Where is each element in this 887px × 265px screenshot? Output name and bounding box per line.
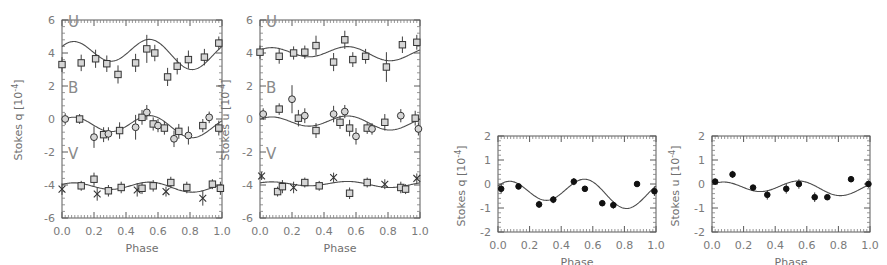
x-tick-label: 0.6 [584,239,602,252]
y-axis-label-exponent: -4 [218,84,227,92]
data-point [316,181,322,191]
y-tick-label: -2 [480,226,491,239]
y-tick-label: 1 [698,154,705,167]
y-axis-label-text: Stokes u [10-4] [218,79,232,160]
panel-stokes-q-single: 0.00.20.40.60.81.0210-1-2PhaseStokes q [… [448,128,673,265]
x-tick-label: 1.0 [411,225,429,238]
y-tick-label: -2 [694,226,705,239]
marker-filled-circle [571,179,577,185]
marker-square [414,39,420,45]
panel-stokes-u-single: 0.00.20.40.60.81.0210-1-2PhaseStokes u [… [660,128,887,265]
marker-square [144,46,150,52]
marker-square [164,74,170,80]
marker-square [342,37,348,43]
marker-filled-circle [652,188,658,194]
marker-square [150,183,156,189]
data-point [258,172,265,180]
data-point [118,182,124,194]
fit-curve-u [712,181,870,196]
x-tick-label: 0.6 [149,225,167,238]
y-axis-label-text: Stokes q [10-4] [454,145,468,226]
marker-circle [260,111,267,118]
marker-square [174,63,180,69]
marker-square [337,119,343,125]
marker-circle [289,96,296,103]
data-point [185,51,191,69]
data-point [115,65,121,83]
data-point [382,114,388,131]
x-tick-label: 0.8 [616,239,634,252]
marker-circle [206,114,213,121]
x-tick-label: 0.2 [283,225,301,238]
data-point [397,109,404,122]
data-point [276,103,282,115]
data-point [185,126,192,144]
data-point [516,184,522,190]
data-point [812,192,818,202]
y-axis-label: Stokes u [10-4] [668,145,682,226]
y-tick-label: 2 [48,80,55,93]
data-point [201,49,207,66]
y-axis-label-text: Stokes q [10-4] [11,79,25,160]
data-point [364,178,370,188]
band-label-B: B [266,79,276,97]
y-tick-label: 2 [484,130,491,143]
data-point [353,128,360,145]
marker-square [76,116,82,122]
marker-square [78,183,84,189]
data-point [582,186,588,192]
data-point [611,202,617,209]
data-point [105,127,112,140]
marker-circle [353,133,360,140]
marker-filled-circle [866,181,872,187]
marker-square [279,183,285,189]
y-tick-label: 2 [246,80,253,93]
marker-square [302,179,308,185]
panel-stokes-q-ubv: 0.00.20.40.60.81.06420-2-4-6PhaseStokes … [0,0,235,265]
marker-square [59,61,65,67]
marker-circle [185,132,192,139]
marker-circle [301,112,308,119]
marker-square [104,61,110,67]
marker-square [295,115,301,121]
y-axis-label-exponent: -4 [454,150,463,158]
marker-filled-circle [498,186,504,192]
data-point [551,196,557,203]
data-point [289,85,296,113]
data-point [330,53,336,71]
data-point [116,122,122,139]
marker-filled-circle [750,185,756,191]
marker-circle [105,130,112,137]
marker-filled-circle [634,181,640,187]
marker-square [399,42,405,48]
y-axis-label-close: ] [12,79,25,83]
marker-square [362,53,368,59]
marker-circle [415,125,422,132]
marker-square [316,183,322,189]
marker-square [92,56,98,62]
marker-square [184,184,190,190]
y-axis-label-close: ] [669,145,682,149]
data-point [257,46,263,59]
marker-filled-circle [812,194,818,200]
x-tick-label: 0.0 [53,225,71,238]
marker-square [115,71,121,77]
y-tick-label: 6 [48,14,55,27]
data-point [313,36,319,56]
data-point [414,35,420,50]
data-point [78,55,84,72]
data-point [415,122,422,135]
marker-square [290,50,296,56]
marker-circle [369,125,376,132]
marker-square [346,125,352,131]
marker-filled-circle [783,186,789,192]
y-tick-label: -4 [44,179,55,192]
marker-square [118,184,124,190]
x-tick-label: 0.8 [379,225,397,238]
marker-filled-circle [730,172,736,178]
data-point [712,179,718,185]
y-tick-label: 4 [48,47,55,60]
data-point [91,126,98,147]
marker-square [313,42,319,48]
x-tick-label: 0.2 [521,239,539,252]
